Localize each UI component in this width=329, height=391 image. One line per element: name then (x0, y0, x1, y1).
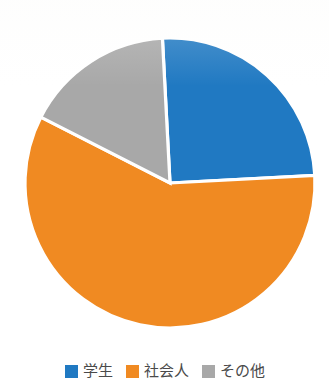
chart-legend: 学生 社会人 その他 (0, 358, 329, 384)
legend-label-working-adults: 社会人 (144, 364, 189, 379)
pie-svg (0, 0, 329, 352)
pie-chart-figure: 学生 社会人 その他 (0, 0, 329, 391)
legend-item-working-adults[interactable]: 社会人 (126, 364, 189, 379)
legend-label-students: 学生 (83, 364, 113, 379)
legend-swatch-icon-working-adults (126, 365, 139, 378)
legend-swatch-icon-students (65, 365, 78, 378)
legend-swatch-icon-other (202, 365, 215, 378)
legend-label-other: その他 (220, 364, 265, 379)
pie-slice-group (25, 38, 315, 328)
legend-item-other[interactable]: その他 (202, 364, 265, 379)
legend-item-students[interactable]: 学生 (65, 364, 113, 379)
pie-plot-area (0, 0, 329, 352)
pie-slice[interactable] (162, 38, 314, 183)
